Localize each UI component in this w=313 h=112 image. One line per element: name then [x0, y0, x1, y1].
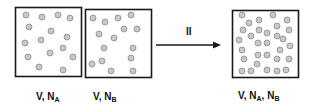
box-b-label: V, NB: [93, 91, 117, 103]
box-mixed-label: V, NA, NB: [238, 90, 279, 102]
label-text: V, N: [238, 90, 257, 101]
label-text: , N: [262, 90, 275, 101]
label-text: V, N: [93, 91, 112, 102]
box-a-label: V, NA: [36, 91, 60, 103]
label-subscript: B: [274, 95, 279, 102]
label-text: V, N: [36, 91, 55, 102]
label-subscript: B: [112, 96, 117, 103]
process-arrow: [156, 42, 221, 49]
label-subscript: A: [55, 96, 60, 103]
box-mixed: [233, 11, 299, 78]
box-b: [86, 10, 152, 78]
box-a: [16, 8, 82, 77]
arrow-label: II: [186, 26, 192, 37]
